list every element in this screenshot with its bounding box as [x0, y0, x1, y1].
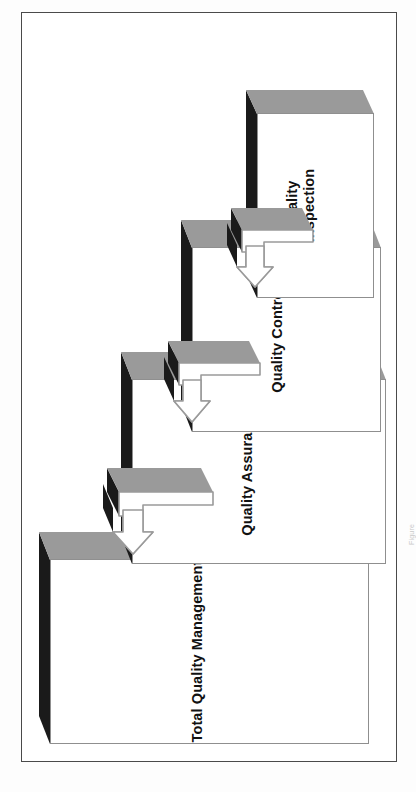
box-top-face-tqm	[39, 532, 50, 744]
arrow-qc-to-qa-svg	[163, 319, 268, 429]
step-label-total-quality-management: Total Quality Management	[189, 559, 206, 744]
arrow-qi-to-qc-svg	[226, 189, 321, 294]
arrow-qa-to-tqm	[101, 442, 221, 562]
diagram-rotation-container: Total Quality Management Quality Assuran…	[21, 12, 397, 762]
diagram-stage: Total Quality Management Quality Assuran…	[21, 12, 397, 762]
arrow-qa-to-tqm-svg	[101, 442, 221, 562]
arrow-qi-to-qc	[226, 189, 321, 294]
page-canvas: Total Quality Management Quality Assuran…	[0, 0, 416, 792]
arrow-qc-to-qa	[163, 319, 268, 429]
figure-caption: Figure	[408, 524, 415, 545]
box-side-face-qi	[246, 90, 374, 114]
box-front-face-tqm	[50, 559, 369, 744]
